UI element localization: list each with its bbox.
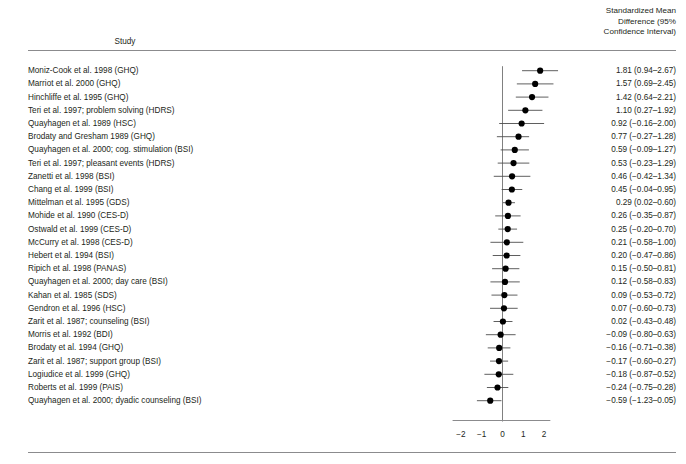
table-row: Quayhagen et al. 2000; cog. stimulation … — [0, 143, 686, 156]
value-column-header-line3: Confidence Interval) — [516, 27, 676, 38]
study-label: Zanetti et al. 1998 (BSI) — [28, 170, 114, 183]
study-label: Ostwald et al. 1999 (CES-D) — [28, 223, 131, 236]
table-row: Roberts et al. 1999 (PAIS)−0.24 (−0.75–0… — [0, 381, 686, 394]
header-divider-rule — [28, 50, 676, 51]
table-row: Brodaty and Gresham 1989 (GHQ)0.77 (−0.2… — [0, 130, 686, 143]
table-row: Zarit et al. 1987; support group (BSI)−0… — [0, 355, 686, 368]
effect-size-label: −0.24 (−0.75–0.28) — [606, 381, 676, 394]
effect-size-label: 1.57 (0.69–2.45) — [616, 77, 676, 90]
table-row: Zarit et al. 1987; counseling (BSI)0.02 … — [0, 315, 686, 328]
study-label: Marriot et al. 2000 (GHQ) — [28, 77, 120, 90]
study-label: Morris et al. 1992 (BDI) — [28, 328, 113, 341]
effect-size-label: 0.25 (−0.20–0.70) — [611, 223, 676, 236]
forest-plot-figure: Standardized Mean Difference (95% Confid… — [0, 0, 686, 464]
footer-divider-rule — [28, 452, 676, 453]
study-label: Chang et al. 1999 (BSI) — [28, 183, 114, 196]
table-row: Teri et al. 1997; pleasant events (HDRS)… — [0, 157, 686, 170]
study-label: Hinchliffe et al. 1995 (GHQ) — [28, 91, 128, 104]
effect-size-label: 0.53 (−0.23–1.29) — [611, 157, 676, 170]
table-row: Logiudice et al. 1999 (GHQ)−0.18 (−0.87–… — [0, 368, 686, 381]
axis-tick-label: −2 — [451, 430, 471, 439]
study-label: Ripich et al. 1998 (PANAS) — [28, 262, 126, 275]
study-label: Roberts et al. 1999 (PAIS) — [28, 381, 123, 394]
table-row: Mohide et al. 1990 (CES-D)0.26 (−0.35–0.… — [0, 209, 686, 222]
effect-size-label: 0.26 (−0.35–0.87) — [611, 209, 676, 222]
table-row: McCurry et al. 1998 (CES-D)0.21 (−0.58–1… — [0, 236, 686, 249]
effect-size-label: 0.15 (−0.50–0.81) — [611, 262, 676, 275]
study-label: Mohide et al. 1990 (CES-D) — [28, 209, 129, 222]
study-label: Kahan et al. 1985 (SDS) — [28, 289, 117, 302]
effect-size-label: −0.16 (−0.71–0.38) — [606, 341, 676, 354]
effect-size-label: 0.21 (−0.58–1.00) — [611, 236, 676, 249]
study-label: Zarit et al. 1987; support group (BSI) — [28, 355, 161, 368]
axis-tick-label: 2 — [534, 430, 554, 439]
table-row: Zanetti et al. 1998 (BSI)0.46 (−0.42–1.3… — [0, 170, 686, 183]
axis-tick-label: −1 — [472, 430, 492, 439]
study-label: Teri et al. 1997; pleasant events (HDRS) — [28, 157, 175, 170]
table-row: Ostwald et al. 1999 (CES-D)0.25 (−0.20–0… — [0, 223, 686, 236]
table-row: Quayhagen et al. 1989 (HSC)0.92 (−0.16–2… — [0, 117, 686, 130]
table-row: Hinchliffe et al. 1995 (GHQ)1.42 (0.64–2… — [0, 91, 686, 104]
effect-size-label: 0.59 (−0.09–1.27) — [611, 143, 676, 156]
value-column-header: Standardized Mean Difference (95% Confid… — [516, 6, 676, 38]
study-label: Moniz-Cook et al. 1998 (GHQ) — [28, 64, 139, 77]
study-label: Brodaty and Gresham 1989 (GHQ) — [28, 130, 155, 143]
study-label: McCurry et al. 1998 (CES-D) — [28, 236, 133, 249]
study-column-header: Study — [0, 37, 250, 46]
axis-tick-label: 1 — [513, 430, 533, 439]
study-label: Quayhagen et al. 2000; day care (BSI) — [28, 275, 168, 288]
effect-size-label: 0.02 (−0.43–0.48) — [611, 315, 676, 328]
table-header: Standardized Mean Difference (95% Confid… — [0, 0, 686, 50]
study-label: Mittelman et al. 1995 (GDS) — [28, 196, 129, 209]
study-label: Logiudice et al. 1999 (GHQ) — [28, 368, 130, 381]
effect-size-label: 1.81 (0.94–2.67) — [616, 64, 676, 77]
table-row: Chang et al. 1999 (BSI)0.45 (−0.04–0.95) — [0, 183, 686, 196]
table-row: Ripich et al. 1998 (PANAS)0.15 (−0.50–0.… — [0, 262, 686, 275]
effect-size-label: −0.17 (−0.60–0.27) — [606, 355, 676, 368]
table-row: Quayhagen et al. 2000; day care (BSI)0.1… — [0, 275, 686, 288]
study-label: Quayhagen et al. 2000; cog. stimulation … — [28, 143, 193, 156]
effect-size-label: 1.10 (0.27–1.92) — [616, 104, 676, 117]
study-label: Quayhagen et al. 2000; dyadic counseling… — [28, 394, 201, 407]
study-label: Hebert et al. 1994 (BSI) — [28, 249, 114, 262]
table-row: Moniz-Cook et al. 1998 (GHQ)1.81 (0.94–2… — [0, 64, 686, 77]
effect-size-label: 0.09 (−0.53–0.72) — [611, 289, 676, 302]
effect-size-label: 0.12 (−0.58–0.83) — [611, 275, 676, 288]
table-row: Marriot et al. 2000 (GHQ)1.57 (0.69–2.45… — [0, 77, 686, 90]
study-label: Zarit et al. 1987; counseling (BSI) — [28, 315, 150, 328]
table-row: Gendron et al. 1996 (HSC)0.07 (−0.60–0.7… — [0, 302, 686, 315]
table-row: Quayhagen et al. 2000; dyadic counseling… — [0, 394, 686, 407]
effect-size-label: 1.42 (0.64–2.21) — [616, 91, 676, 104]
effect-size-label: −0.59 (−1.23–0.05) — [606, 394, 676, 407]
value-column-header-line1: Standardized Mean — [516, 6, 676, 17]
table-row: Hebert et al. 1994 (BSI)0.20 (−0.47–0.86… — [0, 249, 686, 262]
table-row: Brodaty et al. 1994 (GHQ)−0.16 (−0.71–0.… — [0, 341, 686, 354]
study-label: Brodaty et al. 1994 (GHQ) — [28, 341, 123, 354]
study-label: Gendron et al. 1996 (HSC) — [28, 302, 125, 315]
table-row: Mittelman et al. 1995 (GDS)0.29 (0.02–0.… — [0, 196, 686, 209]
effect-size-label: 0.29 (0.02–0.60) — [616, 196, 676, 209]
effect-size-label: 0.45 (−0.04–0.95) — [611, 183, 676, 196]
table-row: Kahan et al. 1985 (SDS)0.09 (−0.53–0.72) — [0, 289, 686, 302]
effect-size-label: −0.18 (−0.87–0.52) — [606, 368, 676, 381]
study-label: Quayhagen et al. 1989 (HSC) — [28, 117, 136, 130]
axis-tick-label: 0 — [493, 430, 513, 439]
effect-size-label: 0.20 (−0.47–0.86) — [611, 249, 676, 262]
effect-size-label: 0.92 (−0.16–2.00) — [611, 117, 676, 130]
table-row: Morris et al. 1992 (BDI)−0.09 (−0.80–0.6… — [0, 328, 686, 341]
table-row: Teri et al. 1997; problem solving (HDRS)… — [0, 104, 686, 117]
effect-size-label: −0.09 (−0.80–0.63) — [606, 328, 676, 341]
value-column-header-line2: Difference (95% — [516, 17, 676, 28]
effect-size-label: 0.77 (−0.27–1.28) — [611, 130, 676, 143]
study-label: Teri et al. 1997; problem solving (HDRS) — [28, 104, 175, 117]
effect-size-label: 0.46 (−0.42–1.34) — [611, 170, 676, 183]
effect-size-label: 0.07 (−0.60–0.73) — [611, 302, 676, 315]
